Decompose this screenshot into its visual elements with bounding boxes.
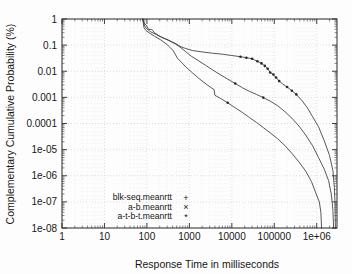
legend-marker-icon: * xyxy=(184,212,188,222)
data-point-marker xyxy=(226,101,229,104)
data-point-marker xyxy=(278,80,281,83)
data-point-marker xyxy=(251,57,254,60)
x-tick-label: 100000 xyxy=(258,231,292,242)
legend-label: blk-seq.meanrtt xyxy=(113,192,173,202)
y-tick-label: 1e-08 xyxy=(31,223,57,234)
data-point-marker xyxy=(275,76,278,79)
data-point-marker xyxy=(245,56,248,59)
x-tick-labels: 1101001000100001000001e+06 xyxy=(59,231,331,242)
data-point-marker xyxy=(260,62,263,65)
chart-container: 1101001000100001000001e+06 10.10.010.001… xyxy=(0,0,352,274)
legend-marker-icon: × xyxy=(183,202,188,212)
y-tick-label: 1e-07 xyxy=(31,196,57,207)
data-point-marker xyxy=(269,71,272,74)
tick-marks xyxy=(62,19,337,228)
axes-border xyxy=(62,19,337,228)
data-point-marker xyxy=(239,55,242,58)
y-tick-label: 0.01 xyxy=(38,66,58,77)
y-tick-label: 1e-05 xyxy=(31,144,57,155)
y-tick-label: 1e-06 xyxy=(31,170,57,181)
data-point-marker xyxy=(256,60,259,63)
legend: blk-seq.meanrtt+a-b.meanrtt×a-t-b-t.mean… xyxy=(113,192,189,222)
legend-label: a-b.meanrtt xyxy=(128,202,173,212)
legend-label: a-t-b-t.meanrtt xyxy=(118,211,173,221)
data-point-marker xyxy=(272,73,275,76)
x-tick-label: 1e+06 xyxy=(303,231,332,242)
y-tick-labels: 10.10.010.0010.00011e-051e-061e-071e-08 xyxy=(26,14,57,234)
data-point-marker xyxy=(262,96,265,99)
x-tick-label: 1000 xyxy=(178,231,201,242)
y-tick-label: 0.001 xyxy=(32,92,57,103)
data-point-marker xyxy=(264,65,267,68)
x-tick-label: 10 xyxy=(99,231,111,242)
x-tick-label: 1 xyxy=(59,231,65,242)
y-tick-label: 0.0001 xyxy=(26,118,57,129)
plot-frame xyxy=(62,19,337,228)
ccdf-plot: 1101001000100001000001e+06 10.10.010.001… xyxy=(0,0,352,274)
legend-marker-icon: + xyxy=(183,193,188,203)
data-point-marker xyxy=(291,89,294,92)
x-tick-label: 10000 xyxy=(218,231,246,242)
data-point-marker xyxy=(234,82,237,85)
y-tick-label: 0.1 xyxy=(43,40,57,51)
y-axis-title: Complementary Cumulative Probability (%) xyxy=(4,24,16,225)
data-point-marker xyxy=(286,86,289,89)
data-point-marker xyxy=(295,93,298,96)
data-point-marker xyxy=(266,67,269,70)
x-tick-label: 100 xyxy=(139,231,156,242)
major-gridlines xyxy=(62,19,337,228)
x-axis-title: Response Time in milliseconds xyxy=(135,258,279,270)
y-tick-label: 1 xyxy=(51,14,57,25)
